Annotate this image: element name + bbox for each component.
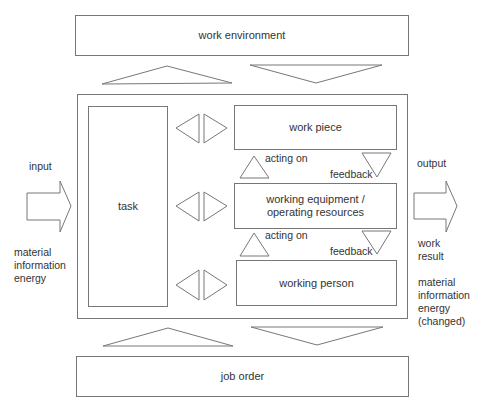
acting-on-label-upper: acting on	[265, 152, 308, 165]
feedback-label-lower: feedback	[330, 245, 373, 258]
output-items: material information energy (changed)	[418, 276, 470, 328]
output-item-information: information	[418, 289, 470, 302]
job-order-label: job order	[221, 370, 264, 383]
work-result-line2: result	[418, 250, 444, 263]
task-box: task	[88, 106, 168, 307]
work-piece-label: work piece	[289, 121, 342, 134]
acting-on-label-lower: acting on	[265, 229, 308, 242]
input-item-information: information	[14, 259, 66, 272]
feedback-label-upper: feedback	[330, 168, 373, 181]
double-arrow-icon-workpiece	[176, 114, 227, 143]
output-item-changed: (changed)	[418, 315, 470, 328]
input-item-energy: energy	[14, 272, 66, 285]
working-person-label: working person	[279, 277, 354, 290]
work-environment-box: work environment	[75, 15, 409, 56]
output-item-material: material	[418, 276, 470, 289]
double-arrow-icon-person	[176, 270, 227, 300]
work-result-line1: work	[418, 237, 444, 250]
output-item-energy: energy	[418, 302, 470, 315]
input-item-material: material	[14, 246, 66, 259]
task-label: task	[118, 200, 138, 213]
job-order-box: job order	[76, 356, 409, 397]
input-arrow-icon	[27, 181, 71, 232]
work-piece-box: work piece	[234, 105, 397, 150]
output-label: output	[417, 157, 446, 170]
work-environment-label: work environment	[199, 29, 286, 42]
working-equipment-box: working equipment / operating resources	[234, 183, 397, 229]
up-arrow-triangle-top	[102, 66, 232, 84]
output-arrow-icon	[414, 181, 457, 232]
working-equipment-label-line1: working equipment /	[266, 193, 364, 206]
working-equipment-label-line2: operating resources	[267, 206, 364, 219]
working-person-box: working person	[236, 260, 397, 306]
input-label: input	[29, 160, 52, 173]
work-result-label: work result	[418, 237, 444, 263]
up-arrow-triangle-bottom	[103, 328, 233, 346]
down-arrow-triangle-bottom	[251, 327, 383, 345]
down-arrow-triangle-top	[250, 65, 382, 83]
input-items: material information energy	[14, 246, 66, 285]
double-arrow-icon-equipment	[176, 192, 227, 221]
